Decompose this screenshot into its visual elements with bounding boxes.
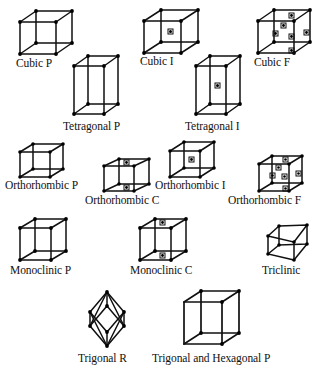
lattice-label-cubic-p: Cubic P — [16, 57, 52, 69]
lattice-cell-orthorhombic-c — [100, 155, 158, 197]
orthorhombic-f-wireframe — [255, 152, 311, 196]
tetragonal-i-body-center-point — [215, 83, 220, 88]
triclinic-wireframe — [264, 222, 314, 264]
lattice-label-trigonal-hexagonal-p: Trigonal and Hexagonal P — [152, 352, 270, 364]
cubic-p-wireframe — [16, 8, 78, 58]
lattice-label-orthorhombic-f: Orthorhombic F — [228, 194, 301, 206]
cubic-f-wireframe — [254, 6, 316, 58]
orthorhombic-i-wireframe — [166, 138, 224, 182]
lattice-label-triclinic: Triclinic — [262, 264, 300, 276]
lattice-label-cubic-i: Cubic I — [140, 55, 173, 67]
lattice-label-cubic-f: Cubic F — [254, 56, 290, 68]
orthorhombic-c-wireframe — [100, 155, 158, 197]
triclinic-vertices — [266, 223, 309, 262]
tetragonal-p-wireframe — [70, 52, 126, 120]
lattice-label-orthorhombic-c: Orthorhombic C — [85, 194, 159, 206]
monoclinic-c-base-center-points — [160, 220, 165, 258]
tetragonal-p-vertices — [72, 54, 120, 116]
lattice-label-tetragonal-p: Tetragonal P — [63, 120, 120, 132]
lattice-cell-trigonal-hexagonal-p — [180, 288, 246, 350]
orthorhombic-i-body-center-point — [189, 157, 194, 162]
lattice-cell-cubic-p — [16, 8, 78, 58]
cubic-i-wireframe — [140, 6, 204, 58]
tetragonal-i-wireframe — [192, 52, 248, 120]
lattice-cell-trigonal-r — [82, 288, 134, 350]
lattice-cell-tetragonal-i — [192, 52, 248, 120]
lattice-cell-orthorhombic-p — [16, 140, 72, 182]
monoclinic-p-wireframe — [16, 215, 76, 265]
lattice-label-orthorhombic-i: Orthorhombic I — [155, 179, 225, 191]
lattice-cell-monoclinic-p — [16, 215, 76, 265]
lattice-cell-monoclinic-c — [136, 215, 196, 265]
lattice-cell-tetragonal-p — [70, 52, 126, 120]
trigonal-r-wireframe — [82, 288, 134, 350]
cubic-i-body-center-point — [168, 29, 173, 34]
lattice-label-trigonal-r: Trigonal R — [78, 352, 127, 364]
lattice-cell-triclinic — [264, 222, 314, 264]
lattice-label-monoclinic-p: Monoclinic P — [10, 264, 71, 276]
trigonal-hexagonal-p-vertices — [199, 289, 241, 346]
monoclinic-c-wireframe — [136, 215, 196, 265]
lattice-label-monoclinic-c: Monoclinic C — [130, 264, 192, 276]
lattice-cell-cubic-i — [140, 6, 204, 58]
bravais-lattice-figure: Cubic P Cubic I — [0, 0, 319, 367]
lattice-label-orthorhombic-p: Orthorhombic P — [5, 179, 78, 191]
orthorhombic-p-wireframe — [16, 140, 72, 182]
trigonal-hexagonal-p-wireframe — [180, 288, 246, 350]
orthorhombic-c-base-center-points — [124, 160, 129, 190]
lattice-cell-cubic-f — [254, 6, 316, 58]
lattice-label-tetragonal-i: Tetragonal I — [185, 120, 240, 132]
lattice-cell-orthorhombic-i — [166, 138, 224, 182]
lattice-cell-orthorhombic-f — [255, 152, 311, 196]
